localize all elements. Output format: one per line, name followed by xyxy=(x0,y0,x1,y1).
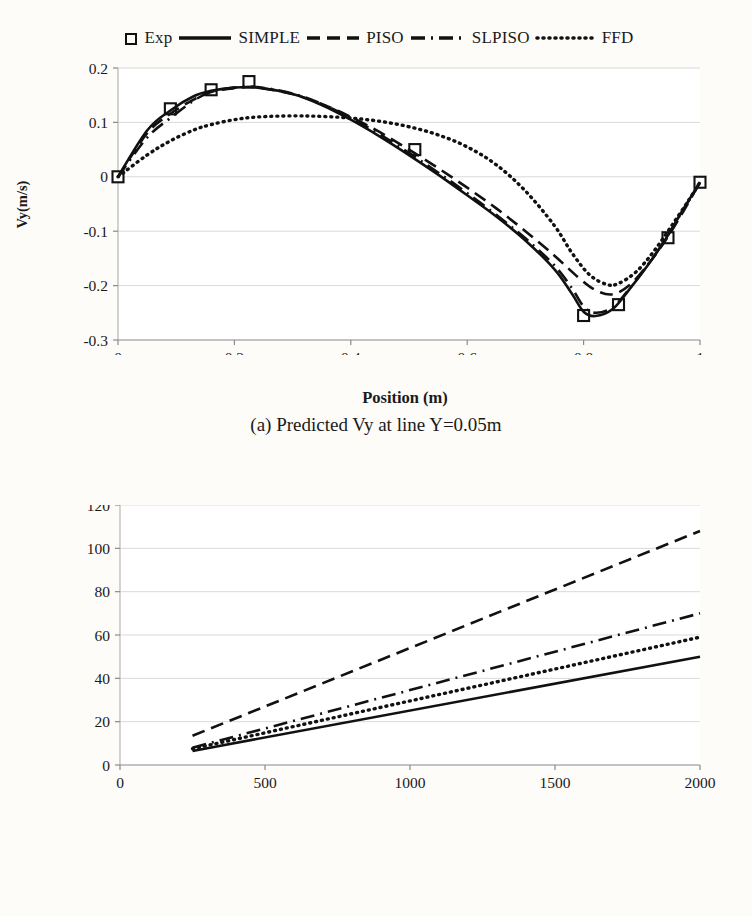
legend-entry-ffd: FFD xyxy=(531,28,635,48)
x-tick-label: 0.4 xyxy=(341,349,361,355)
legend-key-dotted-icon xyxy=(535,31,597,45)
y-tick-label: 0.2 xyxy=(89,60,108,77)
y-tick-label: -0.1 xyxy=(83,223,108,240)
figure-a: ExpSIMPLEPISOSLPISOFFD 0.20.10-0.1-0.2-0… xyxy=(0,0,752,440)
y-tick-label: 60 xyxy=(95,627,111,644)
y-tick-label: -0.3 xyxy=(83,332,108,349)
figure-page: ExpSIMPLEPISOSLPISOFFD 0.20.10-0.1-0.2-0… xyxy=(0,0,752,916)
x-axis-title-figure-a: Position (m) xyxy=(120,388,690,408)
legend-key-dashdot-icon xyxy=(409,31,467,45)
x-tick-label: 0.2 xyxy=(225,349,244,355)
y-tick-label: 0.1 xyxy=(89,114,108,131)
legend-entry-slpiso: SLPISO xyxy=(405,28,531,48)
x-tick-label: 1000 xyxy=(395,774,426,791)
legend-label: SIMPLE xyxy=(237,28,301,48)
legend-label: PISO xyxy=(365,28,405,48)
x-tick-label: 0 xyxy=(116,774,124,791)
y-tick-label: 40 xyxy=(95,670,111,687)
legend-figure-a: ExpSIMPLEPISOSLPISOFFD xyxy=(0,28,752,48)
legend-entry-exp: Exp xyxy=(118,28,174,48)
legend-key-marker-square-icon xyxy=(122,31,140,45)
plot-area-figure-a: 0.20.10-0.1-0.2-0.300.20.40.60.81 xyxy=(0,55,752,355)
x-tick-label: 1500 xyxy=(540,774,571,791)
legend-entry-simple: SIMPLE xyxy=(173,28,301,48)
y-tick-label: 0 xyxy=(100,168,108,185)
y-tick-label: 0 xyxy=(102,757,110,774)
x-tick-label: 1 xyxy=(696,349,704,355)
y-axis-title-figure-a: Vy(m/s) xyxy=(14,145,31,265)
legend-entry-piso: PISO xyxy=(301,28,405,48)
x-tick-label: 0.6 xyxy=(458,349,478,355)
x-tick-label: 500 xyxy=(253,774,277,791)
plot-area-figure-b: 1201008060402000500100015002000 xyxy=(0,505,752,795)
legend-key-solid-icon xyxy=(177,31,233,45)
figure-b: PISOFFDSLPISOSIMPLE 12010080604020005001… xyxy=(0,440,752,916)
chart-svg-figure-b: 1201008060402000500100015002000 xyxy=(0,505,752,795)
x-tick-label: 2000 xyxy=(685,774,716,791)
y-tick-label: 20 xyxy=(95,713,111,730)
y-tick-label: 100 xyxy=(87,540,111,557)
caption-figure-a: (a) Predicted Vy at line Y=0.05m xyxy=(0,414,752,436)
y-tick-label: -0.2 xyxy=(83,277,108,294)
legend-marker-square xyxy=(126,34,136,44)
y-tick-label: 120 xyxy=(87,505,111,514)
legend-label: Exp xyxy=(144,28,174,48)
legend-label: SLPISO xyxy=(471,28,531,48)
y-tick-label: 80 xyxy=(95,583,111,600)
x-tick-label: 0.8 xyxy=(574,349,594,355)
legend-label: FFD xyxy=(601,28,635,48)
chart-svg-figure-a: 0.20.10-0.1-0.2-0.300.20.40.60.81 xyxy=(0,55,752,355)
x-tick-label: 0 xyxy=(114,349,122,355)
legend-key-dashed-icon xyxy=(305,31,361,45)
